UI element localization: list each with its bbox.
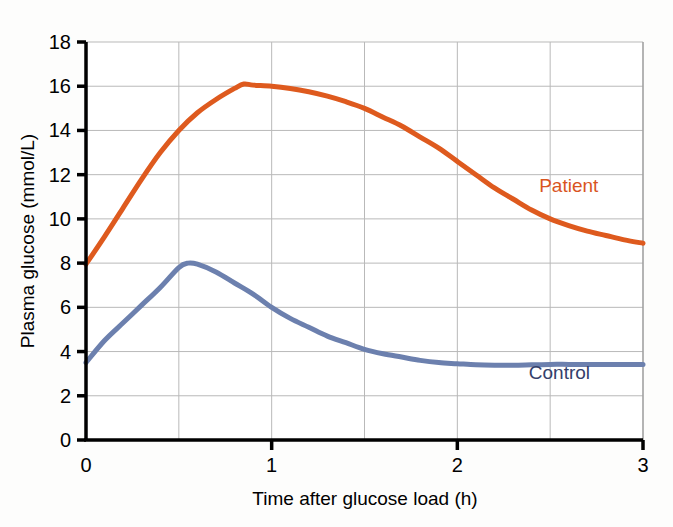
y-tick-label: 4 [60, 341, 71, 363]
y-tick-label: 16 [49, 75, 71, 97]
series-label-control: Control [529, 362, 590, 383]
x-tick-label: 0 [80, 454, 91, 476]
x-tick-label: 1 [266, 454, 277, 476]
y-tick-label: 14 [49, 119, 71, 141]
x-axis-title: Time after glucose load (h) [252, 488, 477, 509]
y-tick-label: 8 [60, 252, 71, 274]
y-tick-label: 0 [60, 429, 71, 451]
y-tick-label: 2 [60, 385, 71, 407]
y-tick-label: 12 [49, 164, 71, 186]
series-label-patient: Patient [539, 175, 599, 196]
x-axis-tick-labels: 0123 [80, 454, 648, 476]
y-axis-title: Plasma glucose (mmol/L) [17, 134, 38, 348]
glucose-tolerance-chart: 024681012141618 0123 Plasma glucose (mmo… [0, 0, 673, 527]
figure-canvas: 024681012141618 0123 Plasma glucose (mmo… [0, 0, 673, 527]
y-tick-label: 6 [60, 296, 71, 318]
y-tick-label: 10 [49, 208, 71, 230]
y-tick-label: 18 [49, 31, 71, 53]
x-tick-label: 2 [452, 454, 463, 476]
y-axis-tick-labels: 024681012141618 [49, 31, 71, 451]
x-tick-label: 3 [637, 454, 648, 476]
